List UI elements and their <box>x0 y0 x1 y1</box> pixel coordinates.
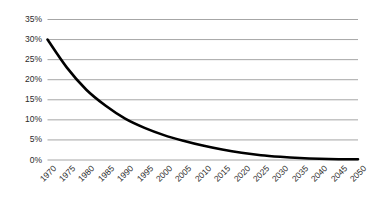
y-axis-tick-label: 25% <box>12 55 42 64</box>
y-axis-tick-label: 5% <box>12 135 42 144</box>
line-chart: 35%30%25%20%15%10%5%0% 19701975198019851… <box>0 0 374 203</box>
y-axis-tick-label: 15% <box>12 95 42 104</box>
gridline-group <box>48 20 359 161</box>
y-axis-tick-label: 10% <box>12 115 42 124</box>
y-axis-tick-label: 30% <box>12 35 42 44</box>
y-axis-tick-label: 20% <box>12 75 42 84</box>
y-axis-tick-label: 0% <box>12 156 42 165</box>
y-axis-tick-label: 35% <box>12 15 42 24</box>
